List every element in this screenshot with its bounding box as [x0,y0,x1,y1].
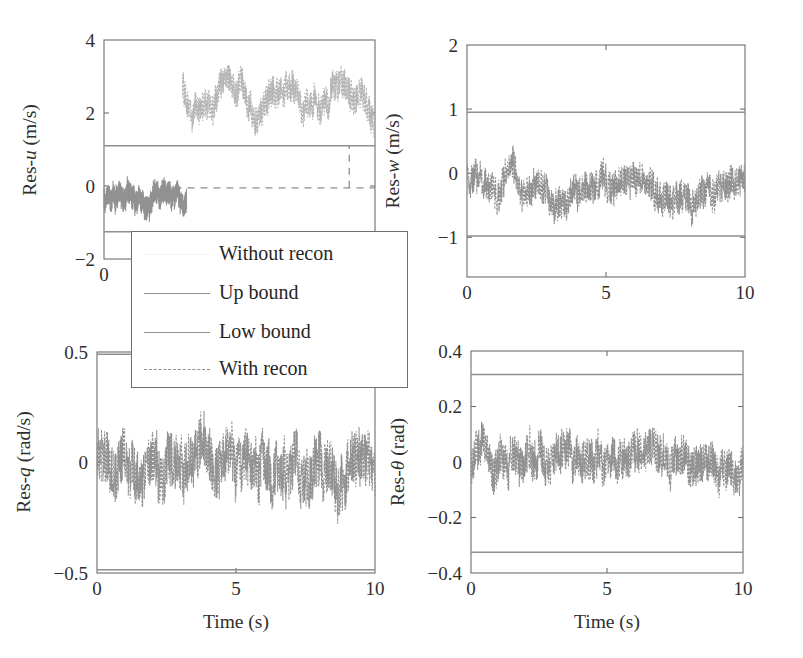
y-tick-label-res-theta-0: −0.4 [428,563,463,584]
y-tick-label-res-q-0: −0.5 [54,563,88,584]
x-tick-label-res-w-2: 10 [736,282,755,303]
y-tick-label-res-w-1: 0 [449,163,459,184]
y-tick-label-res-theta-3: 0.2 [438,396,462,417]
legend-line-sample-without-recon [144,248,210,260]
y-axis-title-prefix-res-u: Res- [19,160,40,196]
y-tick-label-res-u-3: 4 [86,30,96,51]
legend-label-without-recon: Without recon [210,242,333,265]
y-axis-title-symbol-res-theta: θ [387,460,408,470]
y-axis-title-res-w: Res-w (m/s) [382,114,404,209]
y-tick-label-res-theta-1: −0.2 [428,507,462,528]
x-axis-title-res-theta: Time (s) [574,611,640,633]
figure-residual-plots: −20240Res-u (m/s)−10120510Res-w (m/s)−0.… [0,0,803,658]
x-tick-label-res-q-1: 5 [231,578,241,599]
y-axis-title-group-res-u: Res-u (m/s) [19,104,41,196]
legend-entry-low-bound: Low bound [132,312,407,351]
y-tick-label-res-theta-4: 0.4 [438,341,462,362]
y-tick-label-res-u-0: −2 [75,249,95,270]
x-tick-label-res-u-0: 0 [99,264,109,285]
legend: Without recon Up bound Low bound With re… [131,231,408,388]
legend-label-with-recon: With recon [210,357,308,380]
x-tick-label-res-q-0: 0 [92,578,102,599]
y-axis-title-symbol-res-q: q [13,467,34,477]
series-res-q-0 [97,411,375,524]
y-axis-title-group-res-w: Res-w (m/s) [382,114,404,209]
y-axis-title-prefix-res-theta: Res- [387,470,408,506]
x-tick-label-res-theta-0: 0 [466,578,476,599]
legend-entry-without-recon: Without recon [132,234,407,273]
x-tick-label-res-theta-1: 5 [602,578,612,599]
y-axis-title-suffix-res-w: (m/s) [382,114,404,160]
legend-entry-with-recon: With recon [132,349,407,388]
y-axis-title-symbol-res-w: w [382,160,403,173]
y-axis-title-suffix-res-u: (m/s) [19,104,41,150]
y-axis-title-suffix-res-q: (rad/s) [13,411,35,467]
x-tick-label-res-w-1: 5 [601,282,611,303]
y-axis-title-group-res-q: Res-q (rad/s) [13,411,35,512]
y-tick-label-res-w-0: −1 [438,227,458,248]
y-axis-title-group-res-theta: Res-θ (rad) [387,418,409,506]
y-tick-label-res-q-1: 0 [79,452,89,473]
x-tick-label-res-q-2: 10 [366,578,385,599]
x-tick-label-res-theta-2: 10 [734,578,753,599]
legend-line-sample-with-recon [144,363,210,375]
legend-label-low-bound: Low bound [210,320,311,343]
series-res-u-1 [183,65,375,137]
y-tick-label-res-w-2: 1 [449,99,459,120]
legend-line-sample-up-bound [144,287,210,299]
y-tick-label-res-theta-2: 0 [453,452,463,473]
legend-label-up-bound: Up bound [210,281,298,304]
y-tick-label-res-q-2: 0.5 [64,342,88,363]
series-res-theta-0 [471,422,743,498]
series-res-u-0 [104,176,187,222]
y-axis-title-symbol-res-u: u [19,150,40,160]
panel-res-theta: −0.4−0.200.20.40510Res-θ (rad)Time (s) [387,341,753,634]
y-tick-label-res-u-2: 2 [86,103,96,124]
axis-frame-res-u [104,40,375,259]
series-res-w-0 [467,146,745,227]
y-tick-label-res-u-1: 0 [86,176,96,197]
y-axis-title-res-theta: Res-θ (rad) [387,418,409,506]
legend-entry-up-bound: Up bound [132,273,407,312]
y-axis-title-prefix-res-w: Res- [382,173,403,209]
x-axis-title-res-q: Time (s) [203,611,269,633]
y-axis-title-prefix-res-q: Res- [13,477,34,513]
panel-res-w: −10120510Res-w (m/s) [382,35,755,304]
y-tick-label-res-w-3: 2 [449,35,459,56]
y-axis-title-res-u: Res-u (m/s) [19,104,41,196]
legend-line-sample-low-bound [144,326,210,338]
y-axis-title-res-q: Res-q (rad/s) [13,411,35,512]
x-tick-label-res-w-0: 0 [462,282,472,303]
y-axis-title-suffix-res-theta: (rad) [387,418,409,461]
